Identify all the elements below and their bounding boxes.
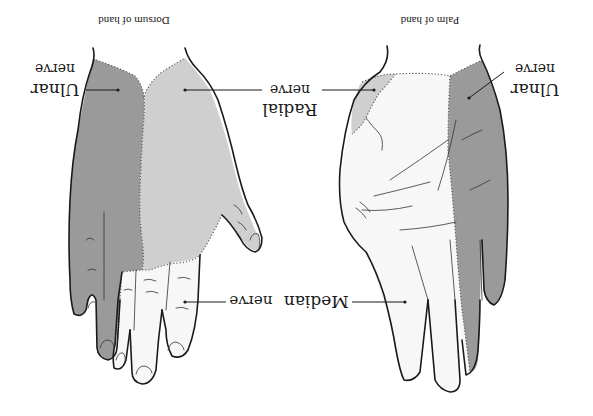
palm-ulnar-label: Ulnar xyxy=(510,80,560,100)
nerve-distribution-diagram: Dorsum of hand Palm of hand Ulnar nerve … xyxy=(0,0,593,416)
median-label-word-2: nerve xyxy=(229,292,272,310)
dorsum-caption: Dorsum of hand xyxy=(98,15,170,27)
median-label: Median nerve xyxy=(229,292,348,312)
dorsum-ulnar-label-2: nerve xyxy=(35,61,75,77)
palm-hand-illustration xyxy=(340,45,509,392)
radial-label: Radial xyxy=(262,100,317,120)
dorsum-hand-illustration xyxy=(69,48,262,384)
palm-ulnar-label-2: nerve xyxy=(515,61,555,77)
palm-caption: Palm of hand xyxy=(400,15,459,27)
median-label-word: Median xyxy=(284,292,349,312)
captions: Dorsum of hand Palm of hand xyxy=(98,15,460,27)
radial-label-2: nerve xyxy=(270,82,310,98)
dorsum-ulnar-label: Ulnar xyxy=(30,80,80,100)
